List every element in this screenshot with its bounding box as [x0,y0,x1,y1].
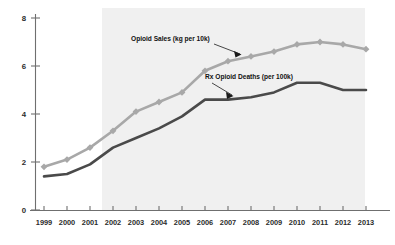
y-tick-label-6: 6 [22,62,27,71]
x-tick-label-2011: 2011 [312,218,328,227]
y-tick-label-0: 0 [22,206,27,215]
x-tick-label-2002: 2002 [105,218,121,227]
x-tick-label-2004: 2004 [151,218,168,227]
x-tick-label-2006: 2006 [197,218,213,227]
opioid-sales-annotation-label: Opioid Sales (kg per 10k) [131,35,210,43]
x-tick-label-2007: 2007 [220,218,236,227]
y-tick-group: 02468 [22,14,40,215]
data-point-1999 [41,163,48,170]
x-tick-label-2003: 2003 [128,218,144,227]
chart-container: 02468 1999200020012002200320042005200620… [0,0,395,245]
x-tick-label-2013: 2013 [358,218,374,227]
x-tick-label-2000: 2000 [59,218,75,227]
x-tick-label-2012: 2012 [335,218,351,227]
x-tick-label-2005: 2005 [174,218,190,227]
x-tick-label-2001: 2001 [82,218,98,227]
line-chart: 02468 1999200020012002200320042005200620… [0,0,395,245]
rx-opioid-deaths-annotation-label: Rx Opioid Deaths (per 100k) [205,73,293,81]
x-tick-label-2008: 2008 [243,218,259,227]
x-tick-label-1999: 1999 [36,218,52,227]
y-tick-label-4: 4 [22,110,27,119]
y-tick-label-2: 2 [22,158,27,167]
x-tick-label-2009: 2009 [266,218,282,227]
x-tick-label-2010: 2010 [289,218,305,227]
y-tick-label-8: 8 [22,14,27,23]
